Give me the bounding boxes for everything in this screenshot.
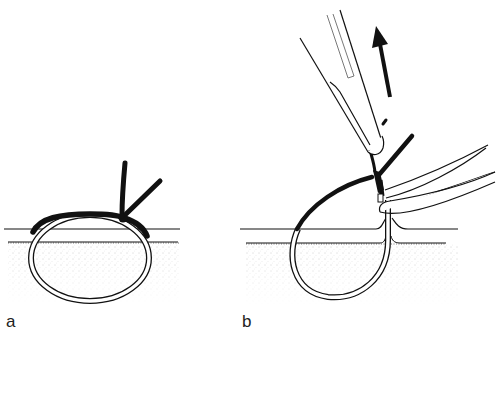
- skin-under-line-b: [246, 236, 446, 243]
- panel-label-a: a: [6, 312, 15, 332]
- panel-b: [240, 10, 495, 306]
- pull-direction-arrow-icon: [372, 26, 390, 97]
- suture-arc-black-b: [297, 177, 372, 229]
- skin-surface-line-b: [240, 218, 458, 229]
- panel-label-b: b: [242, 312, 251, 332]
- suture-end-vertical-a: [122, 163, 125, 216]
- figure-canvas: [0, 0, 502, 394]
- suture-end-diagonal-a: [126, 181, 160, 214]
- needle-holder-icon: [300, 10, 386, 155]
- panel-a: [4, 163, 180, 304]
